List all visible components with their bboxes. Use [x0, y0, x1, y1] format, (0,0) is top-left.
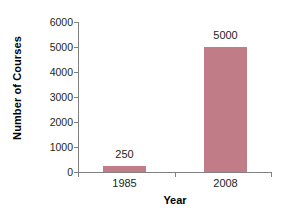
y-tick-mark	[74, 122, 78, 123]
plot-area: 250 5000	[78, 22, 272, 172]
y-tick-mark	[74, 47, 78, 48]
y-tick-label: 0	[33, 166, 73, 178]
bar-1985[interactable]	[103, 166, 146, 172]
y-tick-mark	[74, 97, 78, 98]
y-tick-label: 6000	[33, 16, 73, 28]
y-tick-label: 2000	[33, 116, 73, 128]
bar-value-label-1985: 250	[115, 148, 133, 160]
y-tick-mark	[74, 147, 78, 148]
x-axis-title: Year	[78, 194, 272, 206]
x-tick-label-2008: 2008	[213, 177, 237, 189]
y-axis-title: Number of Courses	[6, 0, 28, 175]
bar-chart: Number of Courses 0 1000 2000 3000 4000 …	[0, 0, 287, 217]
y-tick-label: 4000	[33, 66, 73, 78]
y-tick-label: 3000	[33, 91, 73, 103]
bar-value-label-2008: 5000	[213, 29, 237, 41]
y-axis-title-text: Number of Courses	[11, 36, 23, 140]
x-axis-tick-labels: 1985 2008	[78, 177, 272, 193]
y-tick-mark	[74, 22, 78, 23]
bar-2008[interactable]	[204, 47, 247, 172]
y-axis-line	[78, 22, 79, 172]
y-axis-tick-labels: 0 1000 2000 3000 4000 5000 6000	[28, 0, 73, 217]
y-tick-mark	[74, 72, 78, 73]
y-tick-label: 1000	[33, 141, 73, 153]
x-tick-label-1985: 1985	[112, 177, 136, 189]
y-tick-label: 5000	[33, 41, 73, 53]
